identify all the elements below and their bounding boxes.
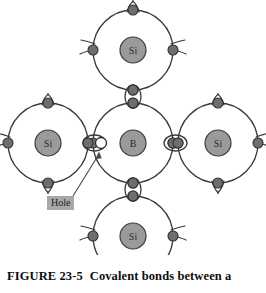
nucleus-label-top: Si	[129, 45, 138, 56]
electron-bond-top-lower	[128, 98, 138, 108]
electron-right-north	[213, 98, 223, 108]
hole-leader-line	[73, 152, 102, 197]
hole-label: Hole	[47, 196, 74, 210]
electron-bond-bottom-upper	[128, 178, 138, 188]
nucleus-label-right: Si	[214, 138, 223, 149]
electron-left-south	[43, 178, 53, 188]
electron-bond-right-outer	[173, 138, 183, 148]
figure-caption-text: Covalent bonds between a	[90, 269, 232, 283]
electron-left-north	[43, 98, 53, 108]
nucleus-label-bottom: Si	[129, 231, 138, 242]
electron-top-north	[128, 5, 138, 15]
electron-top-east	[168, 45, 178, 55]
electron-bond-top-upper	[128, 85, 138, 95]
figure-caption-label: FIGURE 23-5	[7, 269, 83, 283]
covalent-bond-lattice-diagram: Si Si	[0, 0, 266, 255]
electron-right-south	[213, 178, 223, 188]
electron-bond-bottom-lower	[128, 191, 138, 201]
electron-top-west	[88, 45, 98, 55]
figure-container: Si Si	[0, 0, 266, 293]
electron-left-west	[3, 138, 13, 148]
nucleus-label-center: B	[130, 138, 137, 149]
electron-right-east	[253, 138, 263, 148]
electron-bottom-east	[168, 231, 178, 241]
atom-top-silicon: Si	[80, 1, 186, 95]
electron-bond-left-outer	[83, 138, 93, 148]
electron-bottom-west	[88, 231, 98, 241]
nucleus-label-left: Si	[44, 138, 53, 149]
figure-caption: FIGURE 23-5Covalent bonds between a	[7, 269, 263, 284]
atom-left-silicon: Si	[0, 94, 93, 193]
hole-marker	[96, 138, 107, 149]
